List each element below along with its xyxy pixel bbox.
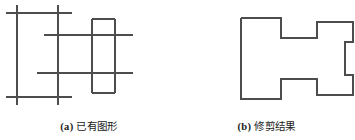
caption-tag-a: (a) bbox=[60, 121, 73, 132]
trimmed-result-drawing bbox=[178, 0, 355, 112]
figure-panel-b: (b)修剪结果 bbox=[178, 0, 355, 140]
caption-text-b: 修剪结果 bbox=[254, 120, 295, 132]
shape-trimmed-polygon bbox=[241, 18, 353, 99]
figure-panel-a: (a)已有图形 bbox=[0, 0, 178, 140]
caption-tag-b: (b) bbox=[238, 121, 252, 132]
figure-container: (a)已有图形 (b)修剪结果 bbox=[0, 0, 355, 140]
caption-panel-b: (b)修剪结果 bbox=[178, 119, 355, 134]
existing-graphics-drawing bbox=[0, 0, 178, 112]
caption-panel-a: (a)已有图形 bbox=[0, 119, 178, 134]
caption-text-a: 已有图形 bbox=[76, 120, 117, 132]
